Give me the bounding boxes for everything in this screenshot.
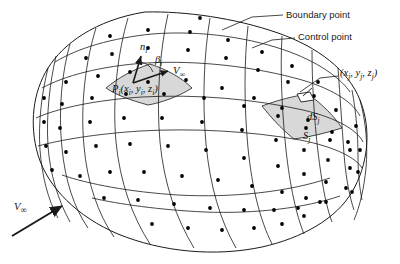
- control-point-dot: [290, 64, 294, 68]
- control-point-dot: [94, 144, 98, 148]
- control-point-dot: [272, 208, 276, 212]
- control-point-dot: [166, 144, 170, 148]
- control-point-dot: [226, 38, 230, 42]
- control-point-dot: [160, 116, 164, 120]
- control-point-dot: [102, 196, 106, 200]
- control-point-dot: [304, 196, 308, 200]
- control-point-dot: [240, 128, 244, 132]
- control-point-dot: [242, 104, 246, 108]
- control-point-dot: [348, 148, 352, 152]
- control-point-dot: [108, 170, 112, 174]
- control-point-dot: [150, 222, 154, 226]
- control-point-dot: [334, 108, 338, 112]
- control-point-dot: [42, 96, 46, 100]
- control-point-dot: [78, 174, 82, 178]
- control-point-dot: [224, 56, 228, 60]
- control-point-dot: [280, 106, 284, 110]
- control-point-dot: [346, 140, 350, 144]
- control-point-dot: [90, 96, 94, 100]
- control-point-dot: [318, 200, 322, 204]
- control-point-dot: [208, 206, 212, 210]
- control-point-dot: [358, 148, 362, 152]
- control-point-dot: [136, 198, 140, 202]
- control-point-dot: [354, 124, 358, 128]
- control-point-dot: [302, 148, 306, 152]
- control-point-dot: [280, 190, 284, 194]
- panel-method-figure: Boundary point Control point (xj, yj, zj…: [0, 0, 400, 264]
- control-point-dot: [202, 96, 206, 100]
- boundary-point-label: Boundary point: [286, 9, 350, 20]
- control-point-dot: [328, 138, 332, 142]
- control-point-dot: [122, 116, 126, 120]
- control-point-label: Control point: [298, 31, 352, 42]
- control-point-dot: [146, 28, 150, 32]
- control-point-dot: [350, 190, 354, 194]
- control-point-dot: [242, 156, 246, 160]
- control-point-dot: [280, 222, 284, 226]
- control-point-dot: [84, 56, 88, 60]
- control-point-dot: [274, 138, 278, 142]
- control-point-dot: [276, 164, 280, 168]
- control-point-dot: [216, 178, 220, 182]
- control-point-dot: [250, 184, 254, 188]
- control-point-dot: [330, 130, 334, 134]
- control-point-dot: [180, 174, 184, 178]
- control-point-dot: [88, 120, 92, 124]
- control-point-dot: [256, 68, 260, 72]
- diagram-canvas: Boundary point Control point (xj, yj, zj…: [0, 0, 400, 264]
- control-point-dot: [186, 226, 190, 230]
- control-point-dot: [172, 202, 176, 206]
- control-point-dot: [186, 48, 190, 52]
- control-point-dot: [344, 186, 348, 190]
- control-point-dot: [260, 50, 264, 54]
- control-point-dot: [198, 16, 202, 20]
- control-point-dot: [96, 74, 100, 78]
- control-point-dot: [348, 166, 352, 170]
- control-point-dot: [142, 170, 146, 174]
- control-point-dot: [162, 92, 166, 96]
- control-point-dot: [324, 200, 328, 204]
- control-point-dot: [64, 150, 68, 154]
- control-point-dot: [128, 70, 132, 74]
- control-point-dot: [110, 52, 114, 56]
- control-point-dot: [324, 180, 328, 184]
- control-point-dot: [42, 120, 46, 124]
- control-point-dot: [60, 102, 64, 106]
- control-point-dot: [220, 228, 224, 232]
- control-point-dot: [252, 226, 256, 230]
- control-point-dot: [64, 80, 68, 84]
- control-point-dot: [50, 168, 54, 172]
- freestream-velocity-label: V∞: [14, 201, 27, 215]
- control-point-dot: [188, 30, 192, 34]
- control-point-dot: [286, 80, 290, 84]
- control-point-dot: [220, 86, 224, 90]
- control-point-dot: [108, 34, 112, 38]
- control-point-dot: [242, 208, 246, 212]
- control-point-dot: [276, 114, 280, 118]
- control-point-dot: [252, 96, 256, 100]
- control-point-dot: [296, 206, 300, 210]
- control-point-dot: [128, 142, 132, 146]
- control-point-dot: [302, 172, 306, 176]
- control-point-dot: [302, 214, 306, 218]
- control-point-dot: [356, 170, 360, 174]
- control-point-dot: [200, 120, 204, 124]
- control-point-dot: [204, 148, 208, 152]
- control-point-dot: [44, 144, 48, 148]
- control-point-dot: [326, 158, 330, 162]
- control-point-dot: [58, 126, 62, 130]
